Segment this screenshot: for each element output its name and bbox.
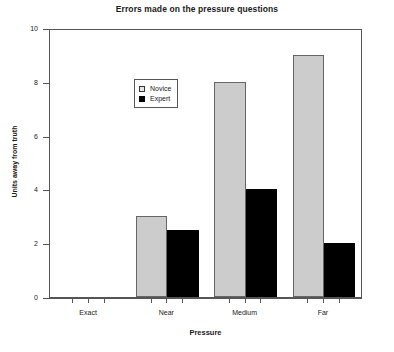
y-axis-tick-label: 6	[0, 132, 38, 139]
bars-layer	[50, 30, 361, 297]
y-axis-tick-label: 4	[0, 186, 38, 193]
chart-legend: NoviceExpert	[134, 79, 178, 108]
y-axis-tick-label: 8	[0, 78, 38, 85]
bar-near-expert	[167, 230, 198, 297]
x-axis-tick-label-far: Far	[288, 309, 358, 316]
bar-medium-expert	[246, 189, 277, 297]
x-axis-tick-label-exact: Exact	[53, 309, 123, 316]
bar-medium-novice	[214, 82, 245, 297]
x-axis-title: Pressure	[49, 328, 362, 337]
x-axis-tick-label-near: Near	[131, 309, 201, 316]
legend-item-novice: Novice	[139, 84, 171, 93]
x-axis-spine	[49, 298, 362, 299]
bar-near-novice	[136, 216, 167, 297]
chart-figure: Errors made on the pressure questions Un…	[0, 0, 394, 352]
legend-label-novice: Novice	[150, 85, 171, 92]
bar-far-expert	[324, 243, 355, 297]
legend-swatch-expert-icon	[139, 96, 145, 102]
legend-item-expert: Expert	[139, 94, 171, 103]
y-axis-tick-label: 10	[0, 25, 38, 32]
chart-title: Errors made on the pressure questions	[0, 4, 394, 14]
y-axis-tick-label: 0	[0, 294, 38, 301]
x-axis-tick-label-medium: Medium	[210, 309, 280, 316]
legend-label-expert: Expert	[150, 95, 170, 102]
y-axis-tick-label: 2	[0, 240, 38, 247]
plot-area	[49, 29, 362, 298]
y-axis-title: Units away from truth	[11, 102, 18, 222]
legend-swatch-novice-icon	[139, 86, 145, 92]
bar-far-novice	[293, 55, 324, 297]
